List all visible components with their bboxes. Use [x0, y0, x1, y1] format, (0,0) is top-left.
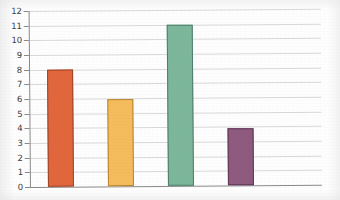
y-axis-label-10: 10 [2, 36, 22, 45]
y-axis-label-11: 11 [2, 22, 22, 31]
bar-3 [167, 25, 194, 186]
y-axis-labels: 1211109876543210 [0, 0, 23, 200]
plot-area: 1211109876543210 [0, 0, 340, 200]
bar-chart: 1211109876543210 [0, 0, 340, 200]
y-axis-label-3: 3 [3, 139, 23, 148]
y-tick-12 [24, 11, 29, 12]
y-axis-label-1: 1 [3, 168, 23, 177]
y-tick-7 [24, 84, 29, 85]
bar-4 [228, 128, 254, 185]
y-axis-label-0: 0 [3, 183, 23, 192]
y-axis-label-4: 4 [2, 124, 22, 133]
y-axis-label-5: 5 [2, 110, 22, 119]
y-tick-6 [24, 99, 29, 100]
gridline-12 [29, 9, 321, 12]
y-axis-label-6: 6 [2, 95, 22, 104]
y-tick-5 [24, 114, 29, 115]
y-tick-3 [25, 143, 30, 144]
y-tick-9 [24, 55, 29, 56]
y-tick-0 [25, 187, 30, 188]
y-tick-8 [24, 70, 29, 71]
y-axis-label-9: 9 [2, 51, 22, 60]
y-tick-11 [24, 26, 29, 27]
y-tick-10 [24, 40, 29, 41]
y-tick-1 [25, 172, 30, 173]
y-tick-4 [25, 128, 30, 129]
y-axis-label-12: 12 [2, 7, 22, 16]
y-tick-2 [25, 158, 30, 159]
y-axis-label-2: 2 [3, 154, 23, 163]
bar-2 [107, 100, 134, 187]
bar-1 [47, 69, 74, 187]
y-axis-label-8: 8 [2, 66, 22, 75]
y-axis-label-7: 7 [2, 80, 22, 89]
